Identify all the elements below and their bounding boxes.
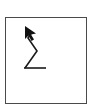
- gesture-panel[interactable]: Z-shaped zigzag stroke with cursor arrow…: [5, 17, 87, 104]
- cursor-arrowhead-icon: [25, 26, 36, 41]
- gesture-stroke-svg: [6, 18, 88, 105]
- screenshot-root: Z-shaped zigzag stroke with cursor arrow…: [0, 0, 94, 112]
- canvas-label: Gesture stroke thumbnail: [0, 0, 1, 1]
